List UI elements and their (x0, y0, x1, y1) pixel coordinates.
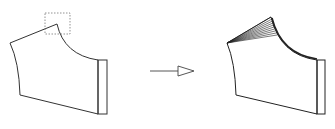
left-piece-strip (98, 60, 107, 114)
left-pattern-piece (10, 13, 107, 114)
diagram-svg (0, 0, 335, 129)
right-pattern-piece (227, 17, 325, 114)
fan-lines (227, 17, 277, 43)
transform-arrow (150, 66, 194, 76)
left-piece-outline (10, 24, 98, 114)
diagram-canvas (0, 0, 335, 129)
arrow-head-icon (178, 66, 194, 76)
right-piece-strip (317, 60, 325, 114)
selection-box (45, 13, 70, 34)
